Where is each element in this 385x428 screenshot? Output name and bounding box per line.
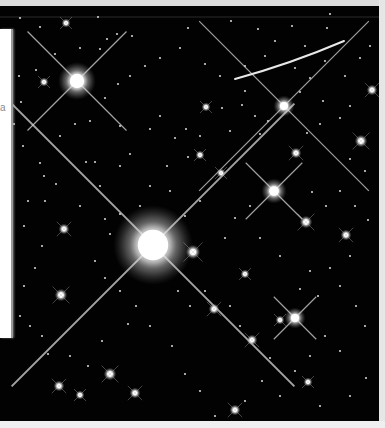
star	[69, 355, 71, 357]
star	[326, 27, 328, 29]
star	[41, 335, 43, 337]
star	[44, 200, 46, 202]
star	[79, 47, 81, 49]
star	[299, 288, 301, 290]
star	[94, 161, 96, 163]
star	[364, 325, 366, 327]
star	[127, 323, 129, 325]
star	[349, 158, 351, 160]
star	[199, 135, 201, 137]
star	[94, 260, 96, 262]
star	[359, 57, 361, 59]
star	[79, 205, 81, 207]
star	[89, 120, 91, 122]
star	[322, 100, 324, 102]
star	[41, 245, 43, 247]
star	[19, 315, 21, 317]
star	[355, 305, 357, 307]
star	[166, 165, 168, 167]
star	[184, 373, 186, 375]
star	[304, 45, 306, 47]
star	[267, 120, 269, 122]
star	[349, 105, 351, 107]
star	[39, 162, 41, 164]
star	[299, 91, 301, 93]
star	[74, 123, 76, 125]
right-star-1	[261, 178, 286, 203]
star	[199, 200, 201, 202]
star	[59, 135, 61, 137]
star	[34, 267, 36, 269]
star	[241, 104, 243, 106]
right-border	[379, 0, 385, 428]
star	[179, 47, 181, 49]
star	[102, 366, 119, 383]
star	[104, 97, 106, 99]
star	[149, 128, 151, 130]
right-star-2	[274, 96, 295, 117]
star	[339, 285, 341, 287]
star	[229, 130, 231, 132]
star	[249, 205, 251, 207]
star	[117, 83, 119, 85]
bottom-border	[0, 421, 385, 428]
star	[187, 156, 189, 158]
star	[215, 167, 227, 179]
star	[119, 213, 121, 215]
star	[369, 45, 371, 47]
star	[309, 355, 311, 357]
star	[325, 205, 327, 207]
star	[339, 117, 341, 119]
star	[29, 325, 31, 327]
star	[129, 153, 131, 155]
star	[22, 145, 24, 147]
star	[319, 405, 321, 407]
star	[234, 217, 236, 219]
panel-glyph: a	[0, 103, 6, 113]
star	[119, 290, 121, 292]
star	[298, 214, 315, 231]
bright-stars	[58, 62, 305, 328]
star	[274, 314, 286, 326]
star	[184, 215, 186, 217]
star	[317, 295, 319, 297]
star-field-photo	[0, 6, 379, 421]
star	[324, 60, 326, 62]
star	[43, 175, 45, 177]
star	[119, 165, 121, 167]
star	[339, 190, 341, 192]
star	[104, 218, 106, 220]
star	[104, 277, 106, 279]
star	[13, 123, 15, 125]
star	[27, 200, 29, 202]
star	[38, 76, 50, 88]
star	[19, 17, 21, 19]
star	[289, 146, 303, 160]
star	[129, 75, 131, 77]
star	[279, 255, 281, 257]
star	[339, 228, 353, 242]
left-white-panel: a	[0, 29, 13, 338]
star	[74, 389, 86, 401]
star	[207, 302, 221, 316]
star	[221, 107, 223, 109]
star	[23, 225, 25, 227]
star	[60, 17, 72, 29]
star	[119, 125, 121, 127]
star	[279, 395, 281, 397]
star-field-canvas	[0, 6, 379, 421]
star	[52, 379, 66, 393]
star	[244, 90, 246, 92]
star	[177, 290, 179, 292]
star	[269, 357, 271, 359]
star	[365, 83, 379, 97]
star	[259, 237, 261, 239]
star	[264, 55, 266, 57]
star	[319, 123, 321, 125]
star	[329, 13, 331, 15]
star	[194, 149, 206, 161]
star	[244, 400, 246, 402]
star	[199, 390, 201, 392]
star	[302, 376, 314, 388]
star	[128, 386, 142, 400]
